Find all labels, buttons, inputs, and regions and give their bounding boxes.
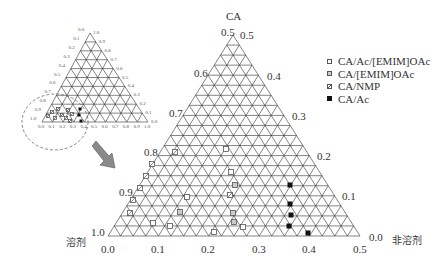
filled-square-icon xyxy=(327,96,332,101)
open-square-icon xyxy=(327,59,332,64)
inset-right-tick: 0.3 xyxy=(134,92,140,97)
inset-left-tick: 0.1 xyxy=(73,36,79,41)
right-tick-5: 0.0 xyxy=(369,231,383,243)
inset-left-tick: 0.2 xyxy=(68,45,74,50)
inset-bottom-tick: 1.0 xyxy=(144,124,150,129)
inset-bottom-tick: 0.2 xyxy=(59,124,65,129)
ternary-diagram: CA 0.5 0.5 0.6 0.4 0.7 0.3 0.8 0.2 0.9 0… xyxy=(0,0,444,265)
left-tick-1: 0.6 xyxy=(194,67,208,79)
inset-left-tick: 0.7 xyxy=(44,89,50,94)
inset-bottom-tick: 0.6 xyxy=(102,124,108,129)
inset-left-tick: 0.4 xyxy=(59,63,65,68)
inset-left-tick: 1.0 xyxy=(30,116,36,121)
left-tick-4: 0.9 xyxy=(119,186,133,198)
main-triangle-grid xyxy=(108,35,360,236)
right-tick-3: 0.2 xyxy=(317,150,331,162)
inset-bottom-tick: 0.9 xyxy=(133,124,139,129)
legend-item: CA/NMP xyxy=(327,80,430,93)
legend-item: CA/Ac xyxy=(327,93,430,106)
legend-label: CA/NMP xyxy=(338,80,380,93)
right-tick-4: 0.1 xyxy=(342,190,356,202)
half-square-icon xyxy=(327,71,332,76)
inset-right-tick: 0.9 xyxy=(99,39,105,44)
bottom-right-label: 非溶剂 xyxy=(392,232,422,247)
inset-right-tick: 1.0 xyxy=(93,30,99,35)
inset-bottom-tick: 0.7 xyxy=(112,124,118,129)
inset-right-tick: 0.1 xyxy=(145,110,151,115)
inset-data-points xyxy=(47,108,83,123)
inset-bottom-tick: 0.1 xyxy=(49,124,55,129)
bottom-tick-0: 0.0 xyxy=(101,243,115,255)
inset-bottom-tick: 0.5 xyxy=(91,124,97,129)
left-tick-0: 0.5 xyxy=(221,26,235,38)
bottom-left-label: 溶剂 xyxy=(66,234,86,249)
inset-left-tick: 0.6 xyxy=(49,80,55,85)
inset-bottom-tick: 0.0 xyxy=(38,124,44,129)
legend-label: CA/Ac xyxy=(338,93,369,106)
apex-label: CA xyxy=(226,10,241,22)
legend-label: CA/Ac/[EMIM]OAc xyxy=(338,55,430,68)
inset-left-tick: 0.3 xyxy=(64,54,70,59)
inset-right-tick: 0.2 xyxy=(139,101,145,106)
inset-right-tick: 0.4 xyxy=(128,83,134,88)
legend: CA/Ac/[EMIM]OAc CA/[EMIM]OAc CA/NMP CA/A… xyxy=(327,55,430,105)
inset-left-tick: 0.0 xyxy=(78,27,84,32)
inset-left-tick: 0.9 xyxy=(35,107,41,112)
inset-right-tick: 0.8 xyxy=(105,48,111,53)
inset-right-tick: 0.0 xyxy=(151,119,157,124)
inset-right-tick: 0.5 xyxy=(122,75,128,80)
bottom-tick-3: 0.3 xyxy=(252,243,266,255)
bottom-tick-1: 0.1 xyxy=(151,243,165,255)
inset-right-tick: 0.6 xyxy=(116,66,122,71)
inset-bottom-tick: 0.8 xyxy=(123,124,129,129)
bottom-tick-4: 0.4 xyxy=(302,243,316,255)
left-tick-3: 0.8 xyxy=(144,146,158,158)
legend-label: CA/[EMIM]OAc xyxy=(338,68,414,81)
legend-item: CA/Ac/[EMIM]OAc xyxy=(327,55,430,68)
legend-item: CA/[EMIM]OAc xyxy=(327,68,430,81)
bottom-tick-5: 0.5 xyxy=(353,243,367,255)
inset-bottom-tick: 0.4 xyxy=(80,124,86,129)
diag-square-icon xyxy=(327,84,332,89)
inset-left-tick: 0.5 xyxy=(54,72,60,77)
right-tick-1: 0.4 xyxy=(267,70,281,82)
left-tick-2: 0.7 xyxy=(169,107,183,119)
zoom-arrow-icon xyxy=(92,141,115,168)
left-tick-5: 1.0 xyxy=(91,226,105,238)
bottom-tick-2: 0.2 xyxy=(201,243,215,255)
right-tick-2: 0.3 xyxy=(292,110,306,122)
inset-right-tick: 0.7 xyxy=(110,57,116,62)
inset-bottom-tick: 0.3 xyxy=(70,124,76,129)
right-tick-0: 0.5 xyxy=(240,29,254,41)
inset-left-tick: 0.8 xyxy=(40,98,46,103)
